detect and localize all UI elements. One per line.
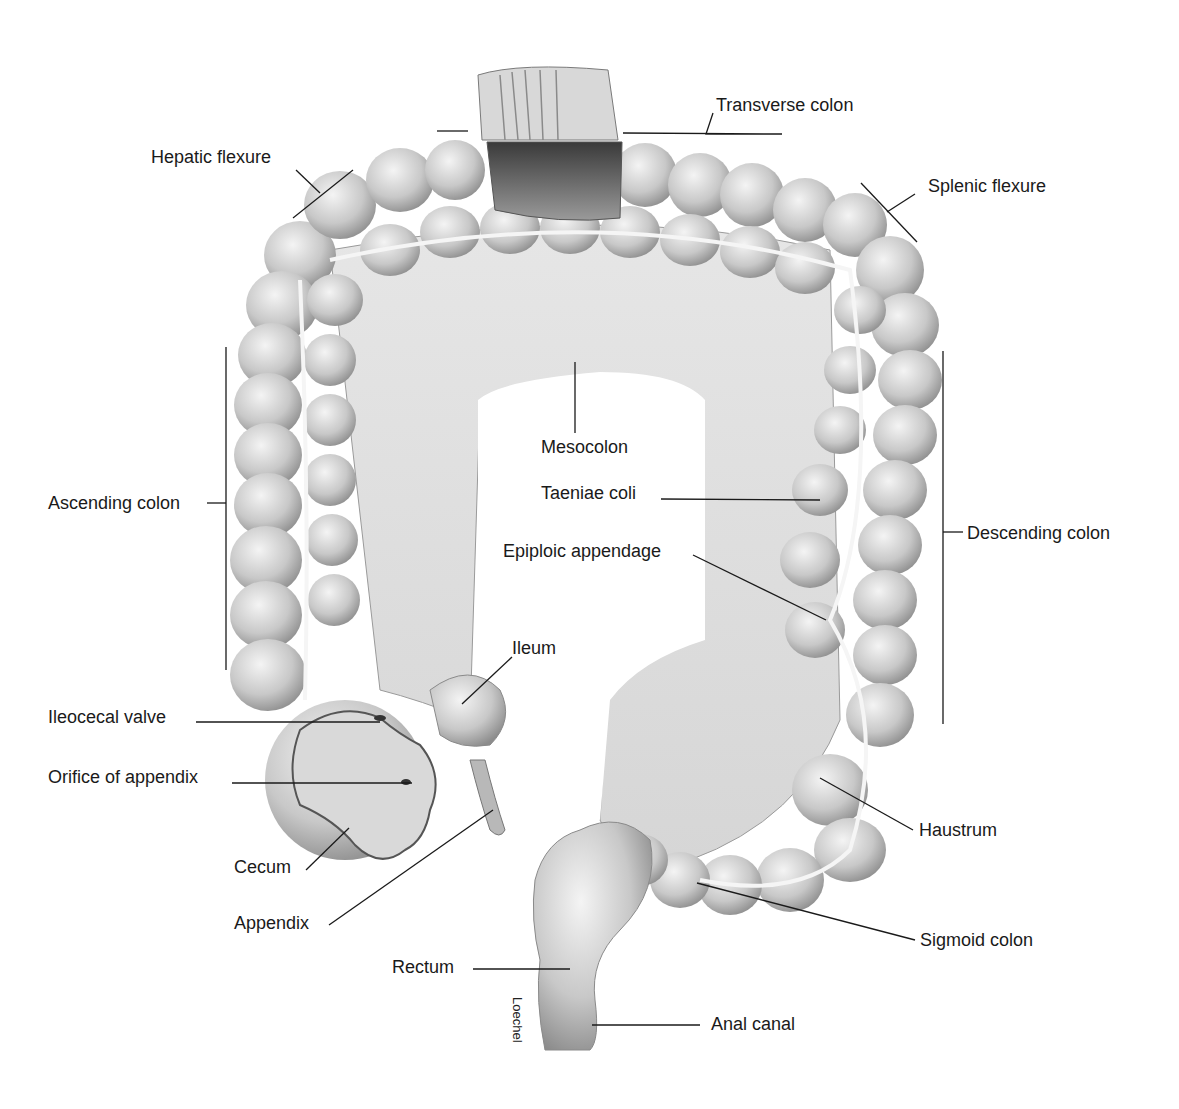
label-haustrum: Haustrum <box>919 820 997 840</box>
label-transverse-colon: Transverse colon <box>716 95 853 115</box>
label-descending-colon: Descending colon <box>967 523 1110 543</box>
label-anal-canal: Anal canal <box>711 1014 795 1034</box>
cecum-shape <box>265 700 436 860</box>
label-ascending-colon: Ascending colon <box>48 493 180 513</box>
label-sigmoid-colon: Sigmoid colon <box>920 930 1033 950</box>
label-hepatic-flexure: Hepatic flexure <box>151 147 271 167</box>
label-orifice-of-appendix: Orifice of appendix <box>48 767 198 787</box>
label-cecum: Cecum <box>234 857 291 877</box>
ileum-shape <box>430 675 506 746</box>
label-mesocolon: Mesocolon <box>541 437 628 457</box>
transverse-colon-cut-segment <box>478 67 622 220</box>
rectum-shape <box>533 822 652 1050</box>
label-ileocecal-valve: Ileocecal valve <box>48 707 166 727</box>
label-appendix: Appendix <box>234 913 309 933</box>
label-rectum: Rectum <box>392 957 454 977</box>
label-taeniae-coli: Taeniae coli <box>541 483 636 503</box>
colon-anatomy-figure: Transverse colon Hepatic flexure Splenic… <box>0 0 1179 1109</box>
ascending-colon-haustra <box>230 221 363 711</box>
label-epiploic-appendage: Epiploic appendage <box>503 541 661 561</box>
label-ileum: Ileum <box>512 638 556 658</box>
artist-credit: Loechel <box>510 997 525 1043</box>
label-splenic-flexure: Splenic flexure <box>928 176 1046 196</box>
